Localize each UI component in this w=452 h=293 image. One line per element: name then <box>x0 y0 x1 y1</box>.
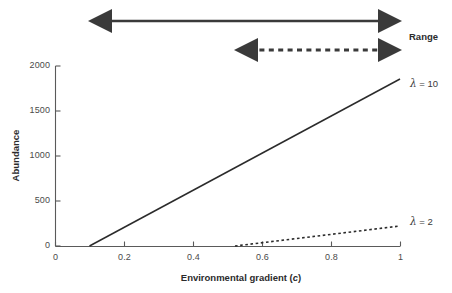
figure-container: 2000 1500 1000 500 0 0 0.2 0.4 0.6 0.8 1… <box>0 0 452 293</box>
series-label-lambda2: λ = 2 <box>410 215 433 227</box>
x-tick-label-0: 0 <box>40 252 71 262</box>
axes-group <box>56 66 401 247</box>
x-axis-title-suffix: ) <box>298 272 301 283</box>
range-arrow-lambda10-head-right <box>378 9 402 33</box>
y-tick-label-2000: 2000 <box>8 60 50 70</box>
x-axis-title-prefix: Environmental gradient ( <box>181 272 293 283</box>
series-label-lambda10: λ = 10 <box>410 77 438 89</box>
series-line-lambda10 <box>90 79 401 246</box>
series-label-lambda2-value: = 2 <box>417 216 433 227</box>
range-arrow-lambda2 <box>234 38 402 62</box>
range-arrow-lambda10 <box>88 9 402 33</box>
x-tick-label-0.2: 0.2 <box>109 252 140 262</box>
range-arrow-lambda10-head-left <box>88 9 112 33</box>
series-group <box>90 79 401 246</box>
x-axis-title: Environmental gradient (c) <box>0 272 452 283</box>
x-tick-label-1: 1 <box>385 252 416 262</box>
lambda-symbol-10: λ <box>410 77 417 89</box>
range-arrow-lambda2-head-right <box>378 38 402 62</box>
plot-canvas <box>0 0 452 293</box>
x-tick-label-0.8: 0.8 <box>316 252 347 262</box>
y-tick-label-0: 0 <box>8 240 50 250</box>
series-label-lambda10-value: = 10 <box>417 78 438 89</box>
series-line-lambda2 <box>235 226 400 246</box>
y-axis-title: Abundance <box>10 111 21 201</box>
range-arrow-lambda2-head-left <box>234 38 258 62</box>
range-annotation-group <box>88 9 402 62</box>
x-tick-label-0.4: 0.4 <box>178 252 209 262</box>
x-tick-label-0.6: 0.6 <box>247 252 278 262</box>
lambda-symbol-2: λ <box>410 215 417 227</box>
range-annotation-label: Range <box>409 31 438 42</box>
